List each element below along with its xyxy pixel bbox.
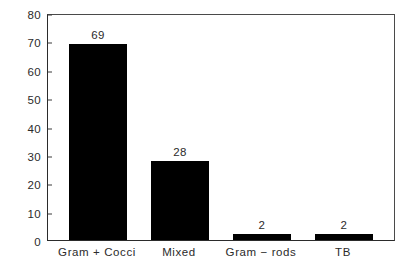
bar-chart: 01020304050607080 692822 Gram + CocciMix… — [0, 0, 410, 276]
bar — [69, 44, 127, 240]
bar — [151, 161, 209, 240]
bar — [315, 234, 373, 240]
y-axis-tick-label: 80 — [27, 9, 48, 21]
x-axis-category-label: Mixed — [162, 246, 196, 258]
bar-value-label: 69 — [91, 29, 105, 41]
y-axis-tick-label: 50 — [27, 94, 48, 106]
bar-value-label: 2 — [259, 219, 266, 231]
y-axis-tick-label: 40 — [27, 123, 48, 135]
y-axis-tick-label: 0 — [34, 236, 48, 248]
bars-group: 692822 — [48, 15, 394, 240]
y-axis-tick-label: 70 — [27, 37, 48, 49]
y-axis-tick-label: 10 — [27, 208, 48, 220]
x-axis-category-label: TB — [335, 246, 351, 258]
y-axis-tick-label: 30 — [27, 151, 48, 163]
y-axis-tick-label: 60 — [27, 66, 48, 78]
x-axis-category-label: Gram + Cocci — [58, 246, 136, 258]
bar-value-label: 2 — [341, 219, 348, 231]
bar-value-label: 28 — [173, 146, 187, 158]
bar — [233, 234, 291, 240]
y-axis-tick-label: 20 — [27, 179, 48, 191]
plot-area: 01020304050607080 692822 — [47, 14, 395, 241]
x-axis-category-label: Gram − rods — [226, 246, 297, 258]
